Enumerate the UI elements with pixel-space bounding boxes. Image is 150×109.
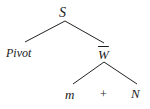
edge-w-n [104, 62, 137, 84]
node-n: N [131, 87, 140, 100]
edge-w-m [73, 62, 104, 84]
node-s: S [59, 6, 66, 20]
node-w-bar: W [98, 48, 109, 61]
node-m: m [65, 88, 74, 101]
edge-s-w [65, 21, 104, 43]
node-pivot: Pivot [6, 47, 31, 59]
edge-s-pivot [25, 21, 65, 42]
node-plus: + [100, 88, 107, 100]
syntax-tree-diagram: S Pivot W m + N [0, 0, 150, 109]
